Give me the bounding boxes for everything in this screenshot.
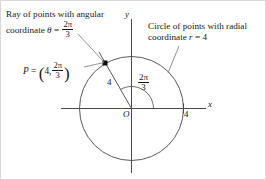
x-tick-label-4: 4 <box>184 109 189 120</box>
point-p-label: P = (4,2π3) <box>23 61 70 80</box>
leader-line-circle-annotation <box>168 46 179 73</box>
point-p-equals: = <box>29 66 39 76</box>
point-p-close-paren: ) <box>64 69 70 80</box>
annotation-ray: Ray of points with angular coordinate θ … <box>6 9 141 39</box>
point-p-angle-denominator: 3 <box>52 70 63 80</box>
annotation-circle-line2-prefix: coordinate <box>148 32 189 42</box>
annotation-circle: Circle of points with radial coordinate … <box>148 21 266 43</box>
annotation-ray-line1: Ray of points with angular <box>6 9 104 19</box>
origin-label: O <box>123 109 130 120</box>
point-p-angle-fraction: 2π3 <box>52 61 63 80</box>
annotation-ray-equals: = <box>52 25 62 35</box>
point-p-comma: , <box>49 66 51 76</box>
point-p-angle-numerator: 2π <box>52 61 63 70</box>
y-axis-label: y <box>125 9 129 20</box>
annotation-circle-value: 4 <box>202 32 207 42</box>
angle-label-2pi-over-3: 2π3 <box>137 73 150 93</box>
polar-coordinate-figure: Ray of points with angular coordinate θ … <box>0 0 266 180</box>
theta-fraction: 2π3 <box>62 20 73 39</box>
annotation-circle-equals: = <box>193 32 203 42</box>
annotation-ray-line2-prefix: coordinate <box>6 25 47 35</box>
angle-fraction: 2π3 <box>138 73 149 93</box>
annotation-circle-line1: Circle of points with radial <box>148 21 247 31</box>
ray-theta-2pi-over-3 <box>99 52 132 109</box>
theta-fraction-denominator: 3 <box>62 29 73 39</box>
radius-label-4: 4 <box>107 77 112 88</box>
angle-fraction-denominator: 3 <box>138 82 149 92</box>
theta-fraction-numerator: 2π <box>62 20 73 29</box>
angle-fraction-numerator: 2π <box>138 73 149 82</box>
x-axis-label: x <box>208 99 212 110</box>
